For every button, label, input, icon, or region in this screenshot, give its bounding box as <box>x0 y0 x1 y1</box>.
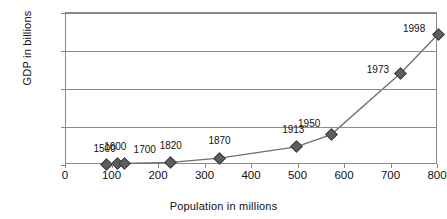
x-tick-label: 800 <box>417 169 447 181</box>
x-tick-label: 200 <box>138 169 178 181</box>
data-point-label: 1998 <box>403 23 425 34</box>
plot-area: 150016001700182018701913195019731998 <box>65 12 437 164</box>
y-axis: 02,5005,0007,50010,000 <box>0 12 65 164</box>
gridline <box>66 89 436 90</box>
x-tick-label: 600 <box>324 169 364 181</box>
gridline <box>66 127 436 128</box>
x-tick-mark <box>158 164 159 168</box>
x-tick-mark <box>205 164 206 168</box>
gridline <box>66 13 436 14</box>
x-tick-label: 700 <box>371 169 411 181</box>
gridline <box>66 51 436 52</box>
x-tick-mark <box>391 164 392 168</box>
y-tick-mark <box>61 127 66 128</box>
data-point-label: 1820 <box>160 140 182 151</box>
y-tick-mark <box>61 89 66 90</box>
data-point-label: 1950 <box>298 118 320 129</box>
x-tick-mark <box>112 164 113 168</box>
x-tick-label: 500 <box>278 169 318 181</box>
x-tick-mark <box>298 164 299 168</box>
x-tick-mark <box>65 164 66 168</box>
y-tick-mark <box>61 51 66 52</box>
x-tick-mark <box>344 164 345 168</box>
data-point-label: 1973 <box>367 64 389 75</box>
x-axis: 0100200300400500600700800 <box>65 164 437 194</box>
data-point-label: 1870 <box>208 135 230 146</box>
x-tick-label: 300 <box>185 169 225 181</box>
y-tick-mark <box>61 13 66 14</box>
data-point-label: 1600 <box>104 141 126 152</box>
chart-container: GDP in billions 02,5005,0007,50010,000 1… <box>0 0 447 219</box>
x-tick-label: 0 <box>45 169 85 181</box>
x-tick-mark <box>437 164 438 168</box>
x-axis-title: Population in millions <box>0 200 447 212</box>
x-tick-label: 400 <box>231 169 271 181</box>
x-tick-label: 100 <box>92 169 132 181</box>
x-tick-mark <box>251 164 252 168</box>
data-point-label: 1700 <box>134 144 156 155</box>
